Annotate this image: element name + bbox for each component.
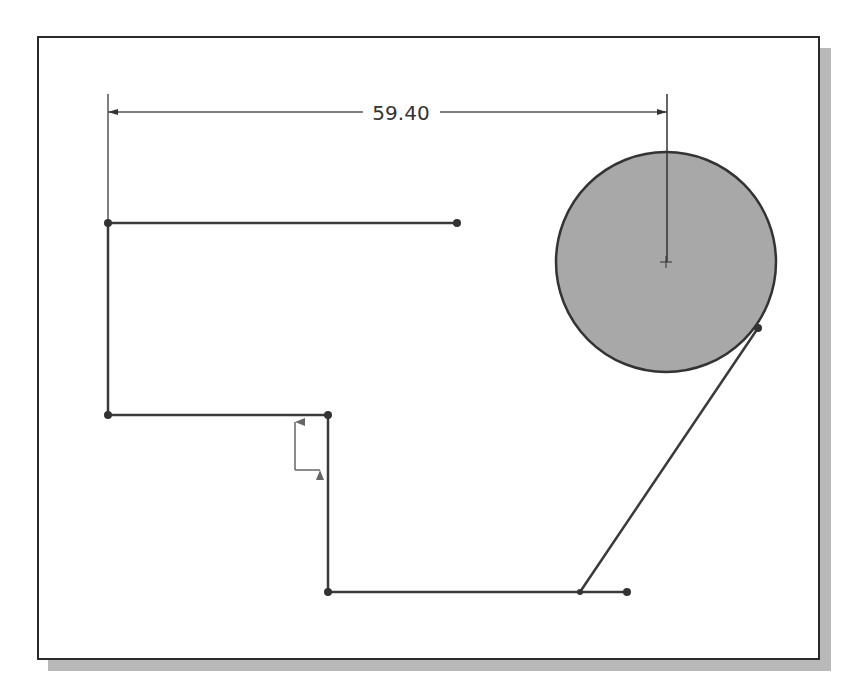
origin-axis-icon — [295, 422, 320, 470]
endpoint[interactable] — [453, 219, 461, 227]
endpoint[interactable] — [104, 411, 112, 419]
endpoint[interactable] — [324, 588, 332, 596]
endpoint[interactable] — [104, 219, 112, 227]
endpoint[interactable] — [324, 411, 332, 419]
endpoint[interactable] — [754, 324, 762, 332]
dimension-label[interactable]: 59.40 — [372, 101, 429, 125]
sketch-canvas: 59.40 — [0, 0, 862, 695]
endpoint[interactable] — [577, 589, 583, 595]
endpoint[interactable] — [623, 588, 631, 596]
